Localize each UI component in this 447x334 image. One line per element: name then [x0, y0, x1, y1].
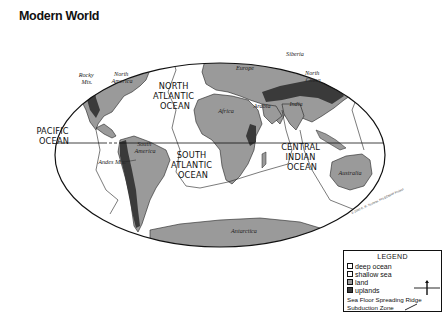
north-america-label: North America [111, 70, 133, 84]
pacific-label: PACIFIC OCEAN [36, 126, 71, 146]
siberia-label: Siberia [286, 50, 304, 57]
australia-label: Australia [337, 169, 361, 176]
deep-ocean-swatch [347, 263, 353, 269]
ridge-label: Sea Floor Spreading Ridge [347, 296, 422, 303]
legend-title: LEGEND [344, 253, 441, 260]
subduction-label: Subduction Zone [347, 304, 394, 311]
india-label: India [288, 100, 302, 107]
ridge-symbol-icon [414, 279, 440, 297]
south-america-label: South America [134, 140, 156, 154]
legend-item-uplands: uplands [347, 286, 380, 294]
legend-item-deep-ocean: deep ocean [347, 262, 392, 270]
antarctica-label: Antarctica [230, 227, 257, 234]
africa-label: Africa [217, 107, 233, 114]
legend-item-shallow-sea: shallow sea [347, 270, 392, 278]
europe-label: Europe [235, 64, 254, 71]
greenland-landmass [150, 32, 185, 54]
uplands-swatch [347, 287, 353, 293]
central-indian-label: CENTRAL INDIAN OCEAN [281, 142, 323, 172]
legend-item-land: land [347, 278, 368, 286]
andes-label: Andes Mts. [97, 158, 126, 165]
land-swatch [347, 279, 353, 285]
rocky-mts-label: Rocky Mts. [78, 71, 96, 85]
japan-islands [350, 82, 358, 98]
subduction-symbol-icon [404, 303, 418, 311]
legend-box: LEGEND deep ocean shallow sea land uplan… [343, 250, 442, 312]
arabia-label: Arabia [252, 102, 270, 109]
north-china-label: North China [304, 69, 321, 83]
shallow-sea-swatch [347, 271, 353, 277]
